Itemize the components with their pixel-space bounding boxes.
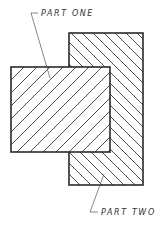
part-one-hatch-line: [0, 67, 11, 152]
section-drawing: PART ONE PART TWO: [0, 0, 162, 237]
part-two-label: PART TWO: [101, 208, 156, 217]
part-one-label: PART ONE: [41, 9, 94, 18]
part-one-hatch-line: [160, 67, 162, 152]
part-one-hatch-line: [147, 67, 162, 152]
part-two-hatch-line: [148, 33, 162, 185]
part-two-hatch-line: [159, 33, 162, 185]
